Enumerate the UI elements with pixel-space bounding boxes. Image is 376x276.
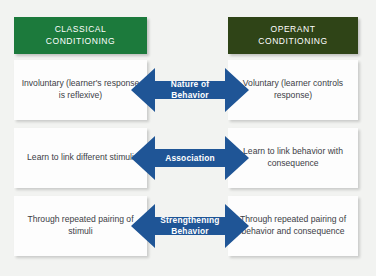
double-arrow-strengthening-behavior: Strengthening Behavior <box>131 198 249 254</box>
diagram-canvas: CLASSICAL CONDITIONING OPERANT CONDITION… <box>0 0 376 276</box>
cell-classical-strengthening-text: Through repeated pairing of stimuli <box>14 214 147 237</box>
double-arrow-icon <box>131 198 249 254</box>
header-classical-line2: CONDITIONING <box>46 36 115 48</box>
cell-classical-association-text: Learn to link different stimuli <box>22 152 139 164</box>
cell-classical-nature: Involuntary (learner's response is refle… <box>14 60 147 120</box>
double-arrow-icon <box>131 62 249 118</box>
header-classical-text: CLASSICAL CONDITIONING <box>46 24 115 47</box>
header-classical-line1: CLASSICAL <box>46 24 115 36</box>
double-arrow-nature-of-behavior: Nature of Behavior <box>131 62 249 118</box>
header-operant-conditioning: OPERANT CONDITIONING <box>228 17 358 54</box>
header-operant-text: OPERANT CONDITIONING <box>258 24 327 47</box>
cell-classical-strengthening: Through repeated pairing of stimuli <box>14 196 147 256</box>
cell-classical-nature-text: Involuntary (learner's response is refle… <box>14 78 147 101</box>
header-operant-line1: OPERANT <box>258 24 327 36</box>
header-classical-conditioning: CLASSICAL CONDITIONING <box>14 17 147 54</box>
header-operant-line2: CONDITIONING <box>258 36 327 48</box>
double-arrow-association: Association <box>131 130 249 186</box>
cell-classical-association: Learn to link different stimuli <box>14 128 147 188</box>
double-arrow-icon <box>131 130 249 186</box>
